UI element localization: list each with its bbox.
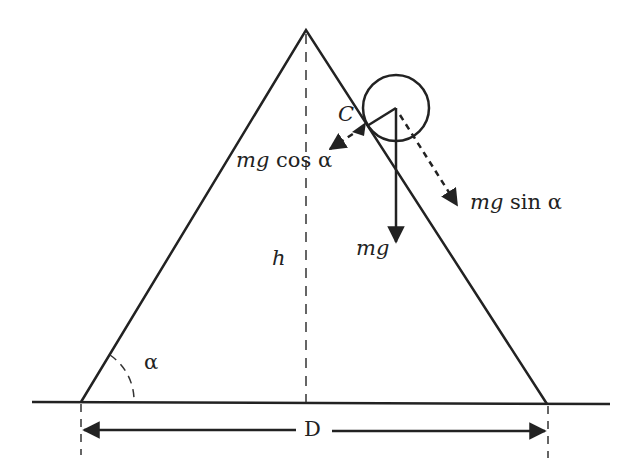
mg-cos-var: mg (236, 148, 269, 172)
diagram-canvas: C mg cos α mg sin α mg h α D (0, 0, 634, 473)
contact-point-label: C (338, 104, 354, 125)
mg-sin-arrow (400, 115, 457, 205)
radius-line (367, 108, 396, 126)
mg-sin-fn: sin α (510, 190, 562, 214)
mg-cos-fn: cos α (276, 148, 332, 172)
diagram-svg (0, 0, 634, 473)
mg-cos-arrow (330, 128, 362, 149)
mg-sin-label: mg sin α (470, 192, 562, 213)
triangle-outline (81, 30, 547, 404)
height-label: h (272, 248, 286, 269)
angle-label: α (144, 352, 158, 373)
weight-label: mg (356, 238, 389, 259)
mg-sin-var: mg (470, 190, 503, 214)
base-width-label: D (304, 419, 321, 440)
ground-line (32, 402, 610, 404)
mg-cos-label: mg cos α (236, 150, 332, 171)
angle-arc (110, 355, 134, 402)
